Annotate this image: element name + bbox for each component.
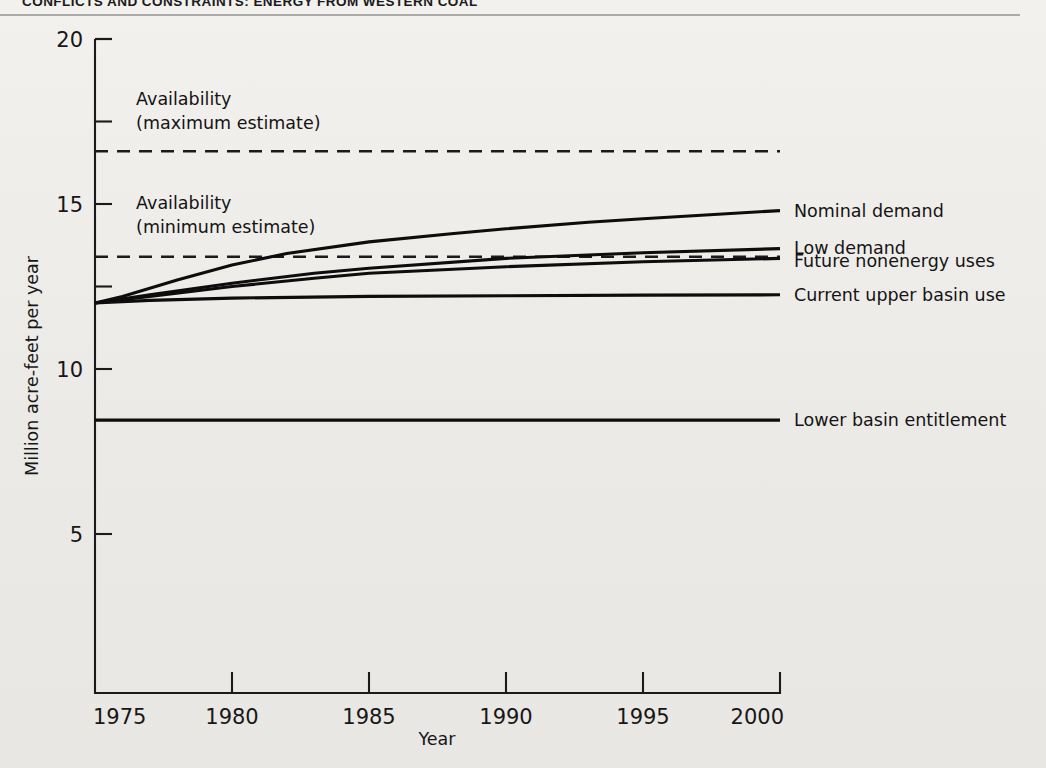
page-canvas: CONFLICTS AND CONSTRAINTS: ENERGY FROM W…	[0, 0, 1046, 768]
y-axis-ticks	[95, 39, 112, 534]
data-series-lines	[95, 211, 780, 421]
y-tick-label: 10	[56, 358, 83, 382]
chart-svg: 5101520 197519801985199019952000 Nominal…	[0, 0, 1046, 768]
x-tick-label: 1980	[205, 705, 258, 729]
y-tick-label: 20	[56, 28, 83, 52]
x-tick-label: 1975	[93, 705, 146, 729]
series-label: Nominal demand	[794, 201, 944, 221]
availability-max-annotation-line1: Availability	[136, 89, 231, 109]
availability-min-annotation-line1: Availability	[136, 193, 231, 213]
chart-axes	[95, 39, 780, 693]
y-axis-tick-labels: 5101520	[56, 28, 83, 547]
series-inline-labels: Nominal demandLow demandFuture nonenergy…	[794, 201, 1006, 431]
x-axis-tick-labels: 197519801985199019952000	[93, 705, 784, 729]
y-tick-label: 15	[56, 193, 83, 217]
chart-figure: 5101520 197519801985199019952000 Nominal…	[0, 0, 1046, 768]
plot-annotations: Availability(maximum estimate)Availabili…	[136, 89, 320, 237]
x-tick-label: 1985	[342, 705, 395, 729]
availability-min-annotation-line2: (minimum estimate)	[136, 217, 315, 237]
series-label: Lower basin entitlement	[794, 410, 1006, 430]
x-axis-title: Year	[417, 729, 456, 749]
x-tick-label: 1990	[479, 705, 532, 729]
y-axis-title: Million acre-feet per year	[22, 255, 42, 476]
series-label: Current upper basin use	[794, 285, 1006, 305]
series-label: Future nonenergy uses	[794, 251, 995, 271]
availability-max-annotation-line2: (maximum estimate)	[136, 113, 320, 133]
series-line-current-upper-basin-use	[95, 295, 780, 303]
x-axis-ticks	[232, 672, 643, 693]
y-tick-label: 5	[70, 523, 83, 547]
x-tick-label: 2000	[731, 705, 784, 729]
x-tick-label: 1995	[616, 705, 669, 729]
